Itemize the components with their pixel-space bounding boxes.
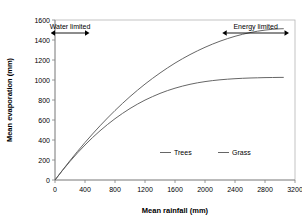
- x-tick-label: 0: [53, 186, 57, 193]
- y-tick-label: 1400: [34, 37, 50, 44]
- data-series-group: [55, 29, 284, 180]
- chart-legend: TreesGrass: [160, 149, 251, 156]
- y-tick-label: 200: [38, 157, 50, 164]
- evaporation-rainfall-chart: 02004006008001000120014001600 0400800120…: [0, 0, 302, 218]
- plot-frame: [55, 20, 295, 180]
- y-tick-label: 0: [46, 177, 50, 184]
- series-line-trees: [55, 29, 284, 180]
- y-tick-label: 400: [38, 137, 50, 144]
- annotation-label-energy-limited: Energy limited: [233, 23, 277, 31]
- annotations-group: Water limitedEnergy limited: [50, 23, 285, 33]
- x-tick-label: 2000: [197, 186, 213, 193]
- series-line-grass: [55, 77, 284, 180]
- x-tick-label: 2400: [227, 186, 243, 193]
- y-tick-label: 1200: [34, 57, 50, 64]
- legend-label-grass: Grass: [232, 149, 251, 156]
- x-tick-label: 2800: [257, 186, 273, 193]
- x-tick-label: 400: [79, 186, 91, 193]
- chart-container: 02004006008001000120014001600 0400800120…: [0, 0, 302, 218]
- y-axis-ticks: 02004006008001000120014001600: [34, 17, 55, 184]
- x-tick-label: 1200: [137, 186, 153, 193]
- y-tick-label: 800: [38, 97, 50, 104]
- y-tick-label: 600: [38, 117, 50, 124]
- x-tick-label: 1600: [167, 186, 183, 193]
- x-tick-label: 3200: [287, 186, 302, 193]
- y-tick-label: 1600: [34, 17, 50, 24]
- x-axis-ticks: 0400800120016002000240028003200: [53, 180, 302, 193]
- annotation-label-water-limited: Water limited: [50, 23, 91, 30]
- x-tick-label: 800: [109, 186, 121, 193]
- legend-label-trees: Trees: [174, 149, 192, 156]
- y-axis-title: Mean evaporation (mm): [5, 57, 14, 142]
- y-tick-label: 1000: [34, 77, 50, 84]
- x-axis-title: Mean rainfall (mm): [142, 206, 209, 215]
